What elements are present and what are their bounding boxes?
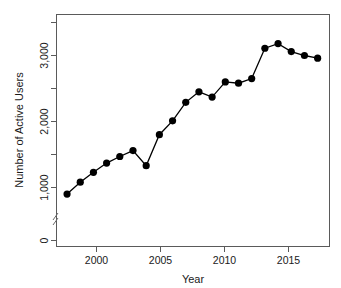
data-point	[261, 45, 268, 52]
data-point	[63, 191, 70, 198]
y-tick-label-1000: 1,000	[38, 174, 50, 200]
x-tick-label-2000: 2000	[85, 254, 109, 266]
y-tick-label-2000: 2,000	[38, 108, 50, 134]
x-axis-title: Year	[182, 273, 205, 285]
line-chart: 0 1,000 2,000 3,000 Number of Active Use…	[0, 0, 341, 288]
y-axis-ticks	[51, 23, 57, 241]
data-point	[301, 52, 308, 59]
y-axis-title: Number of Active Users	[13, 72, 25, 188]
data-point	[209, 93, 216, 100]
data-point	[116, 153, 123, 160]
data-point	[143, 162, 150, 169]
data-point	[248, 75, 255, 82]
data-point	[195, 88, 202, 95]
data-point	[169, 117, 176, 124]
data-point	[103, 159, 110, 166]
y-axis-break-icon	[53, 213, 58, 225]
data-point	[314, 55, 321, 62]
x-tick-label-2005: 2005	[149, 254, 173, 266]
x-tick-label-2010: 2010	[213, 254, 237, 266]
data-point	[182, 99, 189, 106]
data-point	[288, 48, 295, 55]
series-line-active-users	[67, 44, 318, 194]
y-tick-label-3000: 3,000	[38, 42, 50, 68]
data-point	[235, 80, 242, 87]
x-axis-ticks	[57, 247, 330, 253]
data-point	[156, 131, 163, 138]
data-point	[90, 169, 97, 176]
data-point	[274, 40, 281, 47]
data-point	[77, 179, 84, 186]
series-markers-active-users	[63, 40, 321, 198]
chart-container: 0 1,000 2,000 3,000 Number of Active Use…	[0, 0, 341, 288]
x-tick-label-2015: 2015	[277, 254, 301, 266]
data-point	[129, 147, 136, 154]
y-tick-label-0: 0	[38, 237, 50, 243]
data-point	[222, 78, 229, 85]
